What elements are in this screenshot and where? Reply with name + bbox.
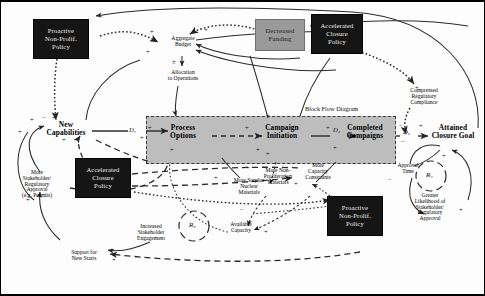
polarity-plus: +	[170, 146, 174, 153]
polarity-plus: +	[415, 84, 419, 91]
polarity-plus: +	[246, 164, 250, 171]
polarity-plus: +	[62, 136, 66, 143]
polarity-plus: +	[146, 48, 150, 55]
delay-label-d2: D₂	[333, 126, 340, 133]
polarity-minus: −	[388, 176, 392, 183]
polarity-plus: +	[140, 134, 144, 141]
polarity-plus: +	[214, 174, 218, 181]
policy-box-proactive-nonprolif-bottom[interactable]: ProactiveNon-Prolif.Policy	[327, 196, 383, 236]
polarity-plus: +	[264, 228, 268, 235]
block-flow-diagram-label: Block Flow Diagram	[305, 105, 358, 112]
polarity-plus: +	[266, 150, 270, 157]
polarity-plus: +	[294, 180, 298, 187]
polarity-plus: +	[30, 116, 34, 123]
polarity-plus: +	[112, 256, 116, 263]
loop-label-r3: R₃	[189, 221, 196, 229]
variable-new-capabilities: NewCapabilities	[36, 121, 96, 136]
polarity-plus: +	[150, 28, 154, 35]
policy-box-label: DecreasedFunding	[266, 27, 295, 43]
polarity-minus: −	[399, 122, 403, 129]
frame-top-rule	[0, 0, 485, 2]
policy-box-label: AcceleratedClosurePolicy	[86, 166, 119, 189]
variable-available-capacity: AvailableCapacity	[219, 222, 263, 234]
polarity-plus: +	[204, 26, 208, 33]
variable-campaign-initiation: CampaignInitiation	[251, 124, 313, 139]
policy-box-label: AcceleratedClosurePolicy	[320, 22, 353, 45]
policy-box-decreased-funding[interactable]: DecreasedFunding	[255, 19, 305, 51]
policy-box-label: ProactiveNon-Prolif.Policy	[45, 27, 77, 50]
delay-label-d3: D₃	[403, 128, 410, 135]
variable-aggregate-budget: AggregateBudget	[156, 36, 210, 48]
polarity-plus: +	[245, 124, 249, 131]
polarity-plus: +	[442, 152, 446, 159]
variable-support-for-new-starts: Support forNew Starts	[58, 250, 110, 262]
polarity-plus: +	[148, 124, 152, 131]
variable-greater-likelihood-approval: GreaterLikelihood ofStakeholder/Regulato…	[399, 193, 461, 222]
variable-completed-campaigns: CompletedCampaigns	[332, 124, 398, 139]
variable-compressed-regulatory-compliance: CompressedRegulatoryCompliance	[396, 88, 452, 105]
variable-allocation-to-operations: Allocationto Operations	[150, 70, 216, 82]
delay-label-d1: D₁	[129, 126, 136, 133]
variable-more-capacity-constraints: MoreCapacityConstraints	[297, 163, 339, 180]
polarity-plus-minus: ±	[172, 58, 176, 65]
variable-increased-stakeholder-engagement: IncreasedStakeholderEngagement	[122, 224, 180, 241]
policy-box-proactive-nonprolif-top[interactable]: ProactiveNon-Prolif.Policy	[33, 19, 89, 59]
polarity-plus: +	[110, 246, 114, 253]
variable-process-options: ProcessOptions	[156, 124, 210, 139]
policy-box-label: ProactiveNon-Prolif.Policy	[339, 204, 371, 227]
polarity-minus: −	[240, 206, 244, 213]
polarity-plus: +	[26, 196, 30, 203]
policy-box-accelerated-closure-top[interactable]: AcceleratedClosurePolicy	[311, 14, 363, 54]
polarity-minus: −	[42, 114, 46, 121]
policy-box-accelerated-closure-left[interactable]: AcceleratedClosurePolicy	[75, 158, 131, 198]
frame-left-rule	[0, 0, 1, 296]
diagram-canvas: Block Flow Diagram	[0, 0, 485, 296]
variable-approval-time: ApprovalTime	[390, 163, 426, 175]
polarity-plus: +	[419, 122, 423, 129]
variable-attained-closure-goal: AttainedClosure Goal	[422, 124, 484, 139]
polarity-plus: +	[266, 112, 270, 119]
polarity-plus: +	[52, 114, 56, 121]
polarity-plus: +	[18, 128, 22, 135]
polarity-plus: +	[326, 124, 330, 131]
polarity-minus: −	[401, 138, 405, 145]
polarity-plus: +	[256, 146, 260, 153]
variable-more-stakeholder-regulatory-approval: MoreStakeholder/RegulatoryApproval(e.g. …	[6, 170, 68, 199]
loop-label-r4: R₄	[426, 171, 433, 179]
polarity-plus: +	[333, 144, 337, 151]
polarity-plus: +	[459, 206, 463, 213]
